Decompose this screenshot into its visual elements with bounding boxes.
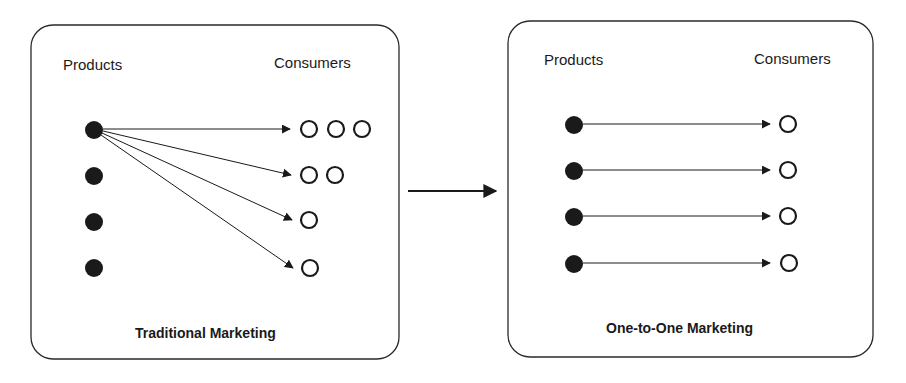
arrows [583,124,770,263]
product-dot [85,259,103,277]
consumer-circles [780,116,797,271]
panel-border [508,21,873,357]
panel-title: Traditional Marketing [135,325,276,341]
consumer-circle [780,208,796,224]
consumer-circle [781,255,797,271]
product-dot [565,208,583,226]
product-dot [565,162,583,180]
product-dot [85,167,103,185]
panel-border [31,25,399,359]
product-dot [565,116,583,134]
consumer-circle [780,116,796,132]
product-dot [85,121,103,139]
product-dots [565,116,583,273]
traditional-marketing-panel [31,25,399,359]
products-label: Products [63,56,122,73]
consumer-circle [301,167,317,183]
arrow [101,135,293,268]
consumer-circle [780,162,796,178]
arrows [101,129,293,268]
consumers-label: Consumers [274,54,351,71]
consumer-circle [301,212,317,228]
products-label: Products [544,51,603,68]
panel-title: One-to-One Marketing [606,320,753,336]
consumer-circles [301,121,370,276]
product-dots [85,121,103,277]
consumer-circle [301,121,317,137]
consumers-label: Consumers [754,50,831,67]
arrow [103,131,291,175]
consumer-circle [327,167,343,183]
one-to-one-marketing-panel [508,21,873,357]
product-dot [85,213,103,231]
arrow [102,133,292,220]
consumer-circle [302,260,318,276]
product-dot [565,255,583,273]
consumer-circle [328,121,344,137]
consumer-circle [354,121,370,137]
